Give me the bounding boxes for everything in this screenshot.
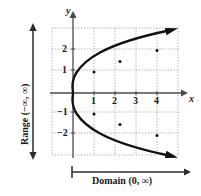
graph-canvas: [0, 0, 201, 196]
x-tick-label-3: 3: [133, 96, 138, 106]
parabola-graph-figure: 1 2 3 4 2 1 −1 −2 x y Range (−∞, ∞) Doma…: [0, 0, 201, 196]
y-tick-label-2: 2: [62, 44, 67, 54]
curve-upper-arrowhead: [165, 28, 178, 35]
curve-point: [156, 134, 159, 137]
range-arrowhead-down: [29, 152, 36, 160]
curve-lower-arrowhead: [165, 151, 178, 158]
curve-upper-branch: [72, 28, 178, 93]
curve-point: [119, 123, 122, 126]
domain-annotation-label: Domain (0, ∞): [92, 176, 152, 186]
y-tick-label-minus-2: −2: [57, 128, 68, 138]
range-double-arrow: [29, 23, 36, 160]
curve-point: [93, 113, 96, 116]
x-axis: [50, 89, 188, 96]
y-tick-label-minus-1: −1: [57, 107, 68, 117]
x-tick-label-4: 4: [154, 96, 159, 106]
curve-point: [93, 71, 96, 74]
range-arrowhead-up: [29, 23, 36, 31]
domain-arrowhead: [184, 168, 191, 175]
x-tick-label-1: 1: [91, 96, 96, 106]
x-tick-label-2: 2: [112, 96, 117, 106]
curve-point: [156, 49, 159, 52]
y-tick-label-1: 1: [62, 65, 67, 75]
y-axis-arrowhead: [69, 11, 76, 18]
tick-marks: [71, 49, 157, 133]
y-axis-label: y: [66, 6, 70, 16]
curve-point: [119, 60, 122, 63]
x-axis-arrowhead: [181, 89, 188, 96]
x-axis-label: x: [189, 94, 194, 104]
curve-lower-branch: [72, 93, 178, 158]
range-annotation-label: Range (−∞, ∞): [20, 84, 30, 145]
